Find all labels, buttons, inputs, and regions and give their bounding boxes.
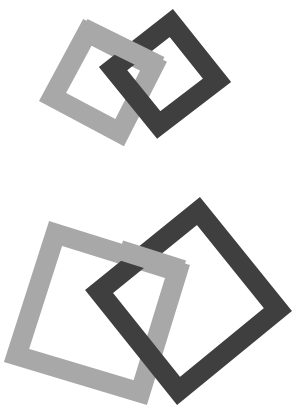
interlocking-squares-figure xyxy=(0,0,304,417)
bottom-dark-square xyxy=(99,211,278,391)
bottom-pair xyxy=(17,211,278,392)
top-pair xyxy=(53,23,217,133)
